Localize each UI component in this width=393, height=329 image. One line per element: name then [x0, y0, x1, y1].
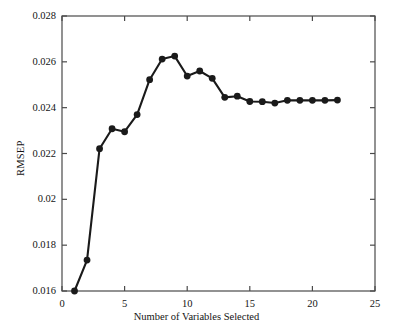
y-tick-label: 0.018	[4, 240, 56, 251]
data-point-marker	[296, 97, 303, 104]
x-tick-label: 10	[182, 299, 193, 310]
data-point-marker	[271, 100, 278, 107]
data-point-marker	[84, 257, 91, 264]
y-axis-title: RMSEP	[16, 118, 27, 198]
data-point-marker	[96, 145, 103, 152]
plot-frame	[62, 16, 375, 291]
rmsep-line-chart-figure: 0.0160.0180.020.0220.0240.0260.028 05101…	[0, 0, 393, 329]
x-axis-title: Number of Variables Selected	[0, 312, 393, 323]
data-point-marker	[309, 97, 316, 104]
data-point-marker	[159, 56, 166, 63]
data-point-marker	[71, 288, 78, 295]
y-tick-label: 0.02	[4, 194, 56, 205]
data-point-marker	[221, 94, 228, 101]
data-point-marker	[184, 73, 191, 80]
data-point-marker	[334, 97, 341, 104]
x-tick-marks	[62, 16, 375, 291]
data-point-marker	[209, 75, 216, 82]
data-point-marker	[109, 125, 116, 132]
x-tick-label: 15	[245, 299, 256, 310]
y-tick-marks	[62, 16, 375, 291]
y-tick-label: 0.028	[4, 11, 56, 22]
data-point-marker	[121, 128, 128, 135]
data-point-marker	[322, 97, 329, 104]
data-point-markers	[71, 53, 341, 295]
data-point-marker	[171, 53, 178, 60]
data-point-marker	[234, 93, 241, 100]
data-point-marker	[196, 68, 203, 75]
plot-canvas	[0, 0, 393, 329]
y-tick-label: 0.016	[4, 286, 56, 297]
data-point-marker	[259, 98, 266, 105]
x-tick-label: 5	[122, 299, 127, 310]
data-point-marker	[146, 76, 153, 83]
data-point-marker	[246, 98, 253, 105]
x-tick-label: 0	[59, 299, 64, 310]
data-point-marker	[134, 111, 141, 118]
x-tick-label: 20	[307, 299, 318, 310]
y-tick-label: 0.022	[4, 148, 56, 159]
data-point-marker	[284, 97, 291, 104]
data-line-series-rmsep	[75, 56, 338, 291]
x-tick-label: 25	[370, 299, 381, 310]
y-tick-label: 0.026	[4, 57, 56, 68]
axes-frame	[62, 16, 375, 291]
y-tick-label: 0.024	[4, 102, 56, 113]
